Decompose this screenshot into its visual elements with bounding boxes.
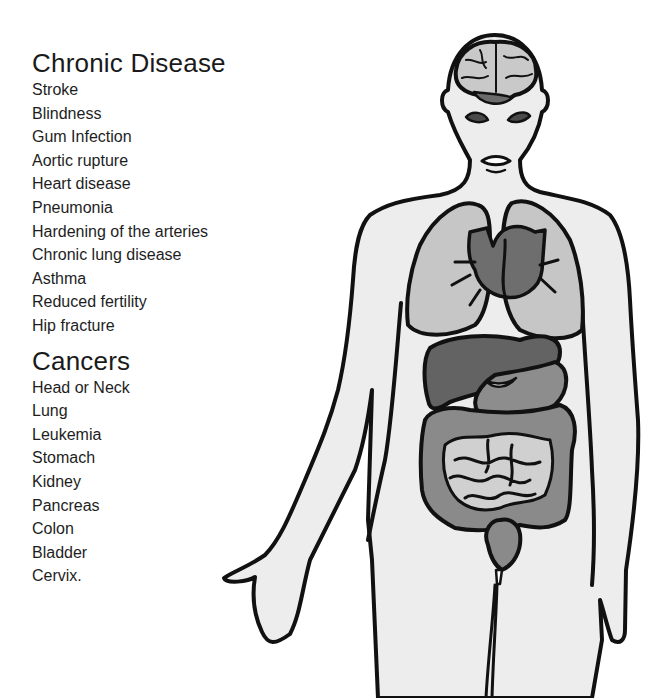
- body-figure: [215, 20, 662, 698]
- urethra: [496, 570, 502, 584]
- mouth: [482, 157, 510, 165]
- small-intestine: [443, 433, 552, 510]
